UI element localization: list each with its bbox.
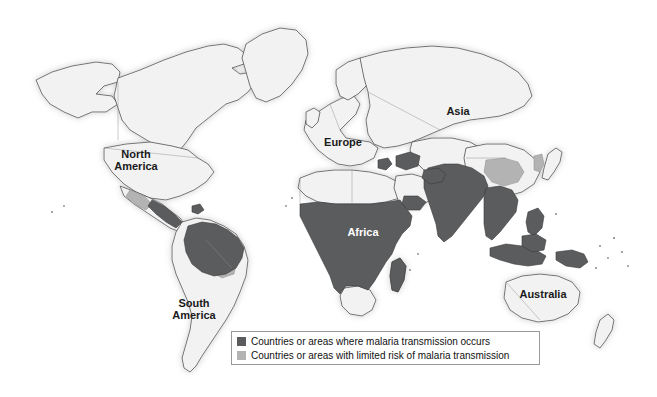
legend-swatch-limited-risk (237, 351, 246, 360)
continent-label-europe: Europe (317, 136, 369, 148)
continent-label-africa: Africa (340, 226, 386, 238)
legend-label-transmission: Countries or areas where malaria transmi… (251, 336, 490, 347)
map-legend: Countries or areas where malaria transmi… (231, 331, 540, 365)
continent-label-south-america: South America (158, 297, 230, 321)
legend-item-transmission: Countries or areas where malaria transmi… (237, 335, 535, 348)
legend-item-limited-risk: Countries or areas with limited risk of … (237, 349, 535, 362)
continent-label-asia: Asia (438, 105, 478, 117)
continent-label-north-america: North America (100, 148, 172, 172)
legend-label-limited-risk: Countries or areas with limited risk of … (251, 350, 509, 361)
continent-label-australia: Australia (512, 288, 574, 300)
legend-swatch-transmission (237, 337, 246, 346)
world-malaria-map: North America South America Europe Asia … (0, 0, 657, 397)
